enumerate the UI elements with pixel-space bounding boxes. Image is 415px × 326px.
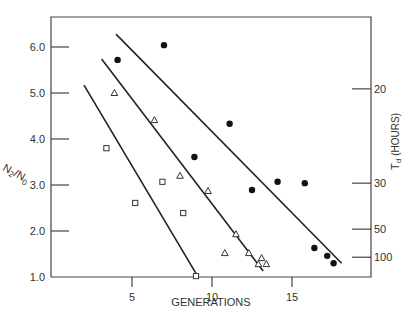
point-filled-circle [161, 42, 167, 48]
point-open-square [160, 179, 165, 184]
point-open-triangle [222, 250, 229, 256]
y-tick-label: 2.0 [30, 225, 45, 237]
right-tick-label: 30 [374, 177, 386, 189]
right-title-d: d [394, 159, 403, 163]
point-filled-circle [114, 57, 120, 63]
data-points [104, 42, 337, 279]
svg-text:N2/N0: N2/N0 [0, 161, 32, 188]
point-filled-circle [330, 260, 336, 266]
point-open-triangle [246, 250, 253, 256]
point-filled-circle [311, 245, 317, 251]
fit-line [84, 85, 198, 276]
right-tick-label: 100 [374, 251, 392, 263]
chart-canvas: 1.02.03.04.05.06.0 51015 203050100 GENER… [0, 0, 415, 326]
y-tick-label: 3.0 [30, 179, 45, 191]
point-open-square [193, 273, 198, 278]
fit-line [102, 59, 264, 271]
left-axis-ticks: 1.02.03.04.05.06.0 [30, 41, 69, 283]
point-filled-circle [249, 187, 255, 193]
point-filled-circle [302, 180, 308, 186]
point-open-triangle [205, 187, 212, 193]
y-tick-label: 5.0 [30, 87, 45, 99]
point-filled-circle [274, 179, 280, 185]
point-filled-circle [191, 154, 197, 160]
right-axis-ticks: 203050100 [352, 83, 392, 263]
y-axis-title: N2/N0 [0, 161, 32, 188]
y-tick-label: 4.0 [30, 133, 45, 145]
point-open-triangle [151, 117, 158, 123]
fit-lines [84, 34, 342, 276]
point-filled-circle [226, 121, 232, 127]
svg-text:Td(HOURS): Td(HOURS) [389, 113, 403, 170]
point-open-triangle [111, 90, 118, 96]
point-open-square [133, 200, 138, 205]
y-tick-label: 1.0 [30, 271, 45, 283]
point-open-triangle [263, 261, 270, 267]
right-axis-title: Td(HOURS) [389, 113, 403, 170]
right-tick-label: 50 [374, 223, 386, 235]
point-open-square [104, 146, 109, 151]
x-tick-label: 15 [286, 291, 298, 303]
plot-frame [51, 17, 371, 277]
point-filled-circle [324, 253, 330, 259]
point-open-triangle [177, 172, 184, 178]
plot-border [51, 17, 371, 277]
right-title-hours: (HOURS) [390, 113, 401, 156]
x-tick-label: 5 [129, 291, 135, 303]
x-axis-title: GENERATIONS [171, 296, 250, 308]
right-tick-label: 20 [374, 83, 386, 95]
point-open-triangle [258, 255, 265, 261]
y-tick-label: 6.0 [30, 41, 45, 53]
fit-line [116, 34, 342, 263]
point-open-square [181, 210, 186, 215]
